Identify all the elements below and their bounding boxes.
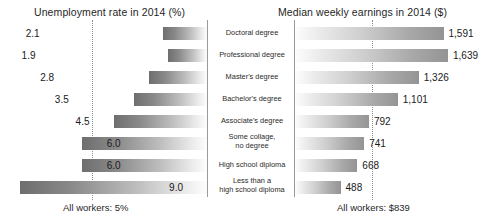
left-bar-row: 9.0 [0, 181, 207, 194]
education-level-label-column: Doctoral degreeProfessional degreeMaster… [207, 20, 295, 197]
unemployment-value-label: 2.8 [14, 71, 54, 84]
earnings-bar [295, 93, 398, 106]
earnings-value-label: 488 [346, 181, 363, 194]
unemployment-value-label: 6.0 [81, 137, 121, 150]
earnings-value-label: 1,326 [424, 71, 449, 84]
education-level-label-line: Master's degree [208, 73, 296, 82]
education-level-label-line: Bachelor's degree [208, 95, 296, 104]
unemployment-bar [168, 49, 207, 62]
unemployment-bar [134, 93, 207, 106]
right-average-reference-line [372, 20, 373, 200]
earnings-value-label: 1,639 [453, 49, 478, 62]
right-bar-row: 488 [295, 181, 485, 194]
unemployment-bar [163, 27, 207, 40]
left-bar-row: 2.1 [0, 27, 207, 40]
education-level-label-line: Doctoral degree [208, 29, 296, 38]
earnings-value-label: 668 [362, 159, 379, 172]
earnings-value-label: 1,101 [403, 93, 428, 106]
education-level-label-line: Associate's degree [208, 117, 296, 126]
unemployment-value-label: 9.0 [143, 181, 183, 194]
unemployment-value-label: 1.9 [0, 49, 35, 62]
right-bar-row: 1,591 [295, 27, 485, 40]
left-bar-row: 4.5 [0, 115, 207, 128]
left-bar-row: 6.0 [0, 137, 207, 150]
earnings-bar [295, 115, 369, 128]
unemployment-value-label: 3.5 [29, 93, 69, 106]
unemployment-bar [114, 115, 208, 128]
earnings-bar [295, 181, 341, 194]
right-bar-row: 741 [295, 137, 485, 150]
right-panel-title: Median weekly earnings in 2014 ($) [278, 6, 447, 18]
education-level-label-line: high school diploma [208, 186, 296, 195]
right-bar-row: 1,101 [295, 93, 485, 106]
education-level-label: Doctoral degree [208, 29, 296, 38]
education-level-label: Less than ahigh school diploma [208, 177, 296, 194]
right-bar-row: 1,639 [295, 49, 485, 62]
left-bar-row: 3.5 [0, 93, 207, 106]
education-level-label: Associate's degree [208, 117, 296, 126]
education-level-label: Master's degree [208, 73, 296, 82]
education-level-label: Professional degree [208, 51, 296, 60]
unemployment-value-label: 4.5 [50, 115, 90, 128]
unemployment-value-label: 2.1 [0, 27, 40, 40]
earnings-value-label: 741 [369, 137, 386, 150]
earnings-bar [295, 137, 364, 150]
education-level-label-line: High school diploma [208, 161, 296, 170]
left-panel-footer: All workers: 5% [63, 202, 128, 213]
left-panel-title: Unemployment rate in 2014 (%) [34, 6, 185, 18]
earnings-value-label: 1,591 [449, 27, 474, 40]
earnings-bar [295, 71, 419, 84]
education-level-label: Some collage,no degree [208, 133, 296, 150]
right-panel-footer: All workers: $839 [337, 202, 410, 213]
earnings-value-label: 792 [374, 115, 391, 128]
unemployment-value-label: 6.0 [81, 159, 121, 172]
education-level-label: High school diploma [208, 161, 296, 170]
left-bar-row: 6.0 [0, 159, 207, 172]
left-bar-row: 2.8 [0, 71, 207, 84]
dual-bar-chart-figure: Unemployment rate in 2014 (%) Median wee… [0, 0, 485, 219]
education-level-label-line: Professional degree [208, 51, 296, 60]
right-bar-row: 668 [295, 159, 485, 172]
earnings-bar [295, 49, 448, 62]
left-bar-row: 1.9 [0, 49, 207, 62]
education-level-label: Bachelor's degree [208, 95, 296, 104]
earnings-bar [295, 27, 444, 40]
education-level-label-line: no degree [208, 142, 296, 151]
unemployment-bar [149, 71, 207, 84]
earnings-bar [295, 159, 357, 172]
right-bar-row: 1,326 [295, 71, 485, 84]
right-bar-row: 792 [295, 115, 485, 128]
left-average-reference-line [92, 20, 93, 200]
